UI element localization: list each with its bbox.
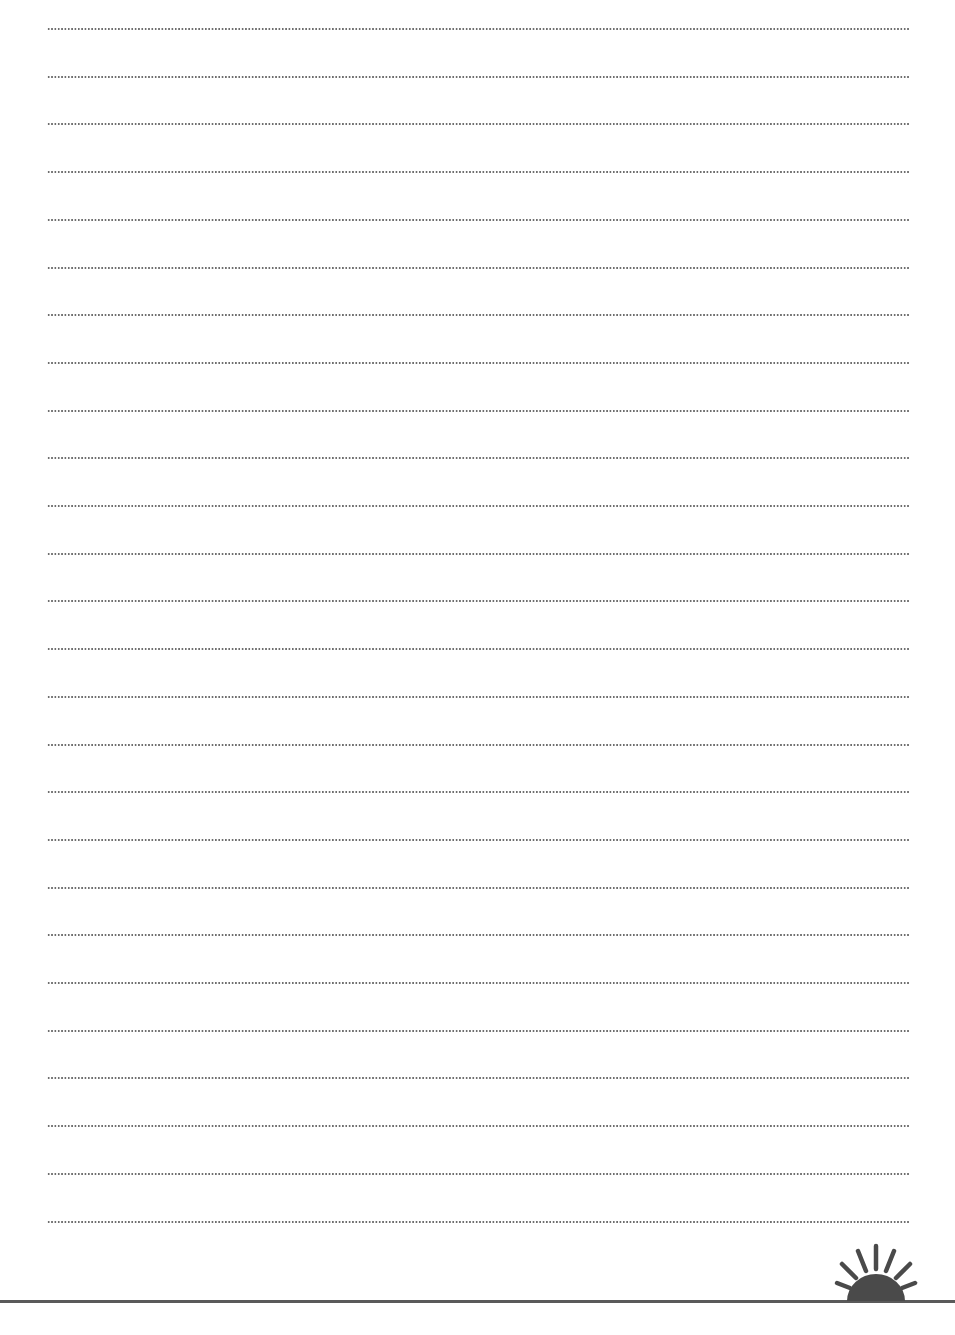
rising-sun-icon: [812, 1238, 940, 1304]
writing-line: [47, 1125, 909, 1127]
writing-line: [47, 314, 909, 316]
writing-line: [47, 410, 909, 412]
writing-line: [47, 744, 909, 746]
writing-line: [47, 28, 909, 30]
writing-line: [47, 219, 909, 221]
writing-lines: [47, 0, 909, 1240]
writing-line: [47, 887, 909, 889]
writing-line: [47, 600, 909, 602]
writing-line: [47, 1030, 909, 1032]
writing-line: [47, 171, 909, 173]
writing-line: [47, 505, 909, 507]
writing-line: [47, 457, 909, 459]
writing-line: [47, 934, 909, 936]
writing-line: [47, 982, 909, 984]
writing-line: [47, 267, 909, 269]
writing-line: [47, 76, 909, 78]
writing-line: [47, 839, 909, 841]
writing-line: [47, 553, 909, 555]
writing-line: [47, 1173, 909, 1175]
writing-line: [47, 696, 909, 698]
writing-line: [47, 362, 909, 364]
writing-line: [47, 123, 909, 125]
writing-line: [47, 648, 909, 650]
writing-line: [47, 791, 909, 793]
writing-line: [47, 1221, 909, 1223]
writing-line: [47, 1077, 909, 1079]
